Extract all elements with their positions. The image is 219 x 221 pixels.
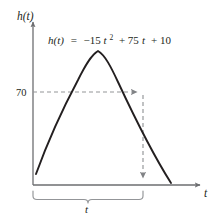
equation-variable-linear: t: [142, 34, 146, 46]
svg-text:h(t) = −15: h(t) = −15 t 2 + 75 t + 10: [48, 30, 171, 47]
equation-function-name: h(t): [48, 34, 64, 47]
equation-exponent: 2: [109, 33, 113, 42]
graph-canvas: h(t) t h(t) = −15 t 2 + 75 t + 10 70: [0, 0, 219, 221]
equation-constant-term: + 10: [151, 34, 171, 46]
y-axis-label: h(t): [17, 10, 34, 23]
parabola-figure: h(t) t h(t) = −15 t 2 + 75 t + 10 70: [0, 0, 219, 221]
guide-lines-group: [33, 92, 143, 178]
equation-label: h(t) = −15 t 2 + 75 t + 10: [48, 30, 171, 47]
axes-group: [33, 22, 200, 185]
equation-linear-term: + 75: [119, 34, 139, 46]
parabola-curve: [36, 51, 171, 183]
interval-brace: [33, 191, 143, 203]
equation-leading-coefficient: −15: [84, 34, 102, 46]
brace-label: t: [85, 203, 89, 215]
equation-equals-sign: =: [71, 34, 77, 46]
equation-variable-squared: t: [104, 34, 108, 46]
x-axis-label: t: [204, 187, 208, 199]
y-value-label: 70: [16, 87, 27, 98]
